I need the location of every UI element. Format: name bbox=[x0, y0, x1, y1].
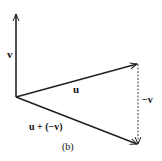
label-u: u bbox=[73, 83, 79, 95]
label-neg-v: −v bbox=[142, 94, 153, 105]
label-sum: u + (−v) bbox=[29, 121, 63, 133]
vector-diagram: v u −v u + (−v) (b) bbox=[0, 0, 162, 161]
label-v: v bbox=[7, 48, 13, 60]
figure-caption: (b) bbox=[62, 141, 74, 153]
